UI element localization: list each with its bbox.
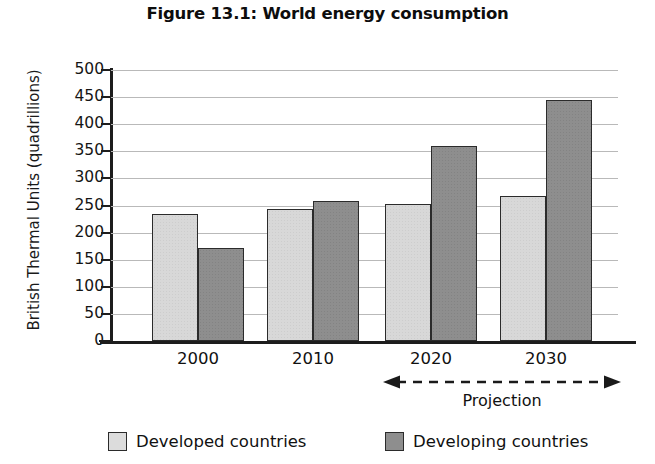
- y-axis-tick: [101, 232, 111, 234]
- bar-2020-developed: [385, 204, 431, 341]
- bar-2020-developing: [431, 146, 477, 341]
- legend-swatch-developed-icon: [108, 432, 127, 451]
- y-axis-tick: [101, 286, 111, 288]
- gridline: [110, 70, 618, 71]
- legend-label-developed: Developed countries: [136, 432, 306, 451]
- legend-item-developed[interactable]: Developed countries: [108, 432, 306, 451]
- y-axis-tick: [101, 259, 111, 261]
- y-axis-tick-labels: 500450400350300250200150100500: [52, 70, 104, 341]
- bar-2000-developing: [198, 248, 244, 341]
- y-axis-tick: [101, 150, 111, 152]
- y-axis-tick-label: 150: [74, 252, 104, 268]
- y-axis-tick: [101, 205, 111, 207]
- chart-legend: Developed countries Developing countries: [100, 432, 620, 458]
- y-axis-tick: [101, 177, 111, 179]
- y-axis-tick-label: 400: [74, 116, 104, 132]
- legend-item-developing[interactable]: Developing countries: [385, 432, 588, 451]
- gridline: [110, 151, 618, 152]
- y-axis-tick: [101, 96, 111, 98]
- x-axis-label-2000: 2000: [177, 349, 219, 368]
- bar-2010-developed: [267, 209, 313, 341]
- y-axis-tick-label: 500: [74, 62, 104, 78]
- gridline: [110, 341, 618, 342]
- y-axis-tick: [101, 313, 111, 315]
- x-axis-label-2020: 2020: [410, 349, 452, 368]
- y-axis-tick: [99, 340, 111, 342]
- y-axis-tick-label: 200: [74, 225, 104, 241]
- y-axis-title: British Thermal Units (quadrillions): [25, 69, 43, 330]
- plot-area: [110, 70, 618, 341]
- y-axis-tick-label: 350: [74, 144, 104, 160]
- y-axis-tick-label: 450: [74, 89, 104, 105]
- bar-2000-developed: [152, 214, 198, 341]
- y-axis-title-wrap: British Thermal Units (quadrillions): [22, 54, 46, 346]
- bar-2010-developing: [313, 201, 359, 341]
- y-axis-tick-label: 300: [74, 171, 104, 187]
- projection-arrow-icon: [383, 374, 621, 390]
- bar-2030-developed: [500, 196, 546, 341]
- y-axis-tick: [101, 123, 111, 125]
- projection-label: Projection: [383, 391, 621, 410]
- bar-2030-developing: [546, 100, 592, 341]
- y-axis-tick: [101, 69, 111, 71]
- y-axis-tick-label: 100: [74, 279, 104, 295]
- chart-title: Figure 13.1: World energy consumption: [0, 4, 655, 23]
- x-axis-label-2010: 2010: [292, 349, 334, 368]
- gridline: [110, 124, 618, 125]
- figure-13-1: Figure 13.1: World energy consumption Br…: [0, 0, 655, 464]
- gridline: [110, 97, 618, 98]
- legend-label-developing: Developing countries: [413, 432, 588, 451]
- y-axis-tick-label: 250: [74, 198, 104, 214]
- gridline: [110, 178, 618, 179]
- x-axis-label-2030: 2030: [525, 349, 567, 368]
- legend-swatch-developing-icon: [385, 432, 404, 451]
